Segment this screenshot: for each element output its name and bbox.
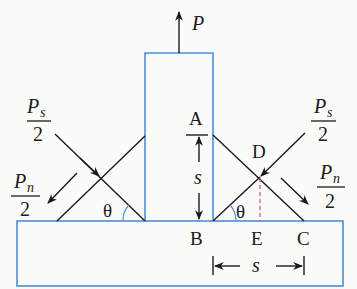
left-normal-fraction: P n 2 bbox=[11, 170, 40, 220]
right-normal-arrow bbox=[281, 178, 308, 204]
left-angle-arc bbox=[123, 205, 129, 221]
svg-text:P: P bbox=[13, 170, 26, 192]
left-shear-fraction: P s 2 bbox=[26, 95, 51, 145]
svg-text:s: s bbox=[327, 105, 333, 120]
point-D-label: D bbox=[252, 141, 266, 162]
load-label: P bbox=[191, 12, 204, 34]
right-normal-fraction: P n 2 bbox=[317, 161, 345, 212]
svg-text:P: P bbox=[313, 95, 326, 117]
svg-text:s: s bbox=[40, 105, 46, 120]
svg-text:2: 2 bbox=[318, 123, 328, 145]
svg-text:n: n bbox=[27, 180, 34, 195]
right-shear-fraction: P s 2 bbox=[311, 95, 336, 145]
left-angle-label: θ bbox=[103, 200, 112, 221]
point-B-label: B bbox=[190, 228, 203, 249]
base-plate bbox=[17, 221, 343, 286]
left-shear-force-line bbox=[55, 134, 145, 221]
weld-diagram: P θ θ s s A B D E C P s 2 P n 2 P s bbox=[0, 0, 357, 289]
svg-text:2: 2 bbox=[33, 123, 43, 145]
dim-horizontal-label: s bbox=[252, 254, 260, 276]
svg-text:2: 2 bbox=[325, 190, 335, 212]
vertical-plate bbox=[145, 53, 213, 221]
point-C-label: C bbox=[297, 228, 310, 249]
dim-vertical-label: s bbox=[194, 166, 202, 188]
point-A-label: A bbox=[189, 108, 203, 129]
svg-text:2: 2 bbox=[20, 198, 30, 220]
left-normal-arrow bbox=[48, 173, 77, 203]
svg-text:n: n bbox=[333, 171, 340, 186]
right-angle-label: θ bbox=[236, 201, 245, 222]
point-E-label: E bbox=[251, 228, 263, 249]
right-shear-arrow bbox=[261, 133, 305, 176]
left-shear-arrow bbox=[80, 158, 99, 176]
svg-text:P: P bbox=[26, 95, 39, 117]
svg-text:P: P bbox=[319, 161, 332, 183]
